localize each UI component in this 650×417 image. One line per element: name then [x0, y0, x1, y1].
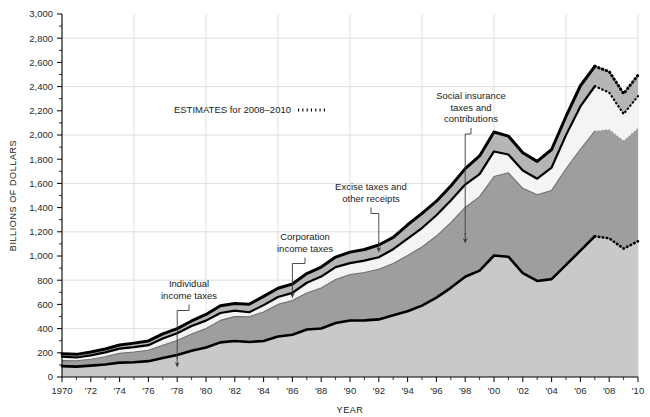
x-tick-label: '92	[373, 385, 385, 396]
x-tick-label: '00	[488, 385, 500, 396]
y-tick-label: 2,000	[29, 129, 53, 140]
y-tick-label: 400	[37, 323, 53, 334]
annotation-label-line: income taxes	[277, 243, 333, 254]
x-tick-label: 1970	[51, 385, 72, 396]
x-tick-label: '74	[113, 385, 125, 396]
y-tick-label: 2,800	[29, 33, 53, 44]
y-tick-label: 3,000	[29, 8, 53, 19]
x-tick-label: '10	[632, 385, 644, 396]
annotation-label-line: Corporation	[280, 231, 330, 242]
x-tick-label: '98	[459, 385, 471, 396]
y-axis-title: BILLIONS OF DOLLARS	[8, 140, 18, 251]
y-tick-label: 2,400	[29, 81, 53, 92]
annotation-label-line: Social insurance	[436, 90, 506, 101]
estimates-legend-label: ESTIMATES for 2008–2010	[174, 104, 291, 115]
y-tick-label: 1,200	[29, 226, 53, 237]
x-axis-title: YEAR	[337, 405, 364, 415]
receipts-area-chart: 02004006008001,0001,2001,4001,6001,8002,…	[0, 0, 650, 417]
y-tick-label: 1,000	[29, 250, 53, 261]
annotation-label-line: Excise taxes and	[335, 181, 407, 192]
x-tick-label: '94	[401, 385, 413, 396]
x-tick-label: '04	[545, 385, 557, 396]
annotation-label-line: taxes and	[450, 102, 491, 113]
x-tick-label: '08	[603, 385, 615, 396]
y-tick-label: 1,400	[29, 202, 53, 213]
annotation-label-line: contributions	[444, 113, 498, 124]
x-axis-ticks: 1970'72'74'76'78'80'82'84'86'88'90'92'94…	[51, 377, 644, 396]
x-tick-label: '82	[229, 385, 241, 396]
y-tick-label: 2,600	[29, 57, 53, 68]
y-tick-label: 2,200	[29, 105, 53, 116]
x-tick-label: '84	[257, 385, 269, 396]
y-tick-label: 1,600	[29, 178, 53, 189]
annotation-label-line: other receipts	[342, 193, 400, 204]
x-tick-label: '90	[344, 385, 356, 396]
x-tick-label: '80	[200, 385, 212, 396]
x-tick-label: '96	[430, 385, 442, 396]
x-tick-label: '86	[286, 385, 298, 396]
annotation-label-line: income taxes	[161, 290, 217, 301]
x-tick-label: '02	[517, 385, 529, 396]
y-tick-label: 0	[48, 371, 53, 382]
x-tick-label: '72	[85, 385, 97, 396]
y-axis-ticks: 02004006008001,0001,2001,4001,6001,8002,…	[29, 8, 62, 382]
x-tick-label: '06	[574, 385, 586, 396]
y-tick-label: 800	[37, 275, 53, 286]
x-tick-label: '78	[171, 385, 183, 396]
chart-svg: 02004006008001,0001,2001,4001,6001,8002,…	[0, 0, 650, 417]
annotation-label-line: Individual	[169, 278, 209, 289]
y-tick-label: 600	[37, 299, 53, 310]
x-tick-label: '88	[315, 385, 327, 396]
x-tick-label: '76	[142, 385, 154, 396]
y-tick-label: 200	[37, 347, 53, 358]
y-tick-label: 1,800	[29, 154, 53, 165]
